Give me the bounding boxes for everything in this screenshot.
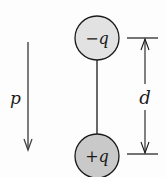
negative-charge-label: −q	[85, 29, 109, 48]
dipole-moment-arrow	[24, 42, 32, 150]
diagram-svg: p −q +q d	[0, 0, 166, 177]
positive-charge: +q	[75, 134, 119, 177]
negative-charge: −q	[75, 16, 119, 60]
positive-charge-label: +q	[85, 147, 109, 166]
separation-label: d	[139, 87, 151, 108]
dipole-diagram: p −q +q d	[0, 0, 166, 177]
dipole-moment-label: p	[10, 88, 21, 108]
